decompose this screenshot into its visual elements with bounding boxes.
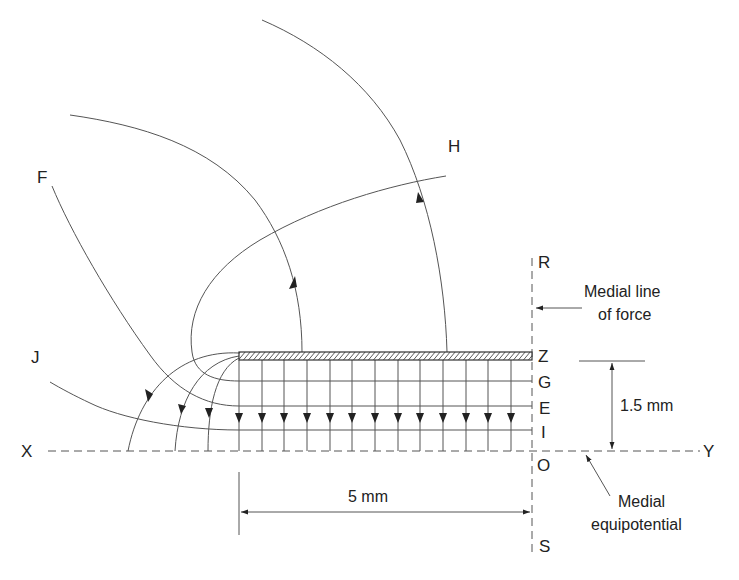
medial-equipotential-text-1: Medial [618, 493, 665, 510]
label-i: I [541, 423, 546, 442]
label-x: X [21, 442, 32, 461]
label-r: R [538, 253, 550, 272]
medial-line-of-force-text-1: Medial line [584, 283, 661, 300]
label-g: G [538, 373, 551, 392]
equipotential-lines [50, 176, 532, 430]
label-j: J [31, 348, 40, 367]
equipotential-g-h [191, 176, 532, 381]
label-o: O [537, 456, 550, 475]
field-line-inner-outer [70, 115, 302, 352]
label-z: Z [538, 347, 548, 366]
medial-line-of-force-text-2: of force [598, 306, 651, 323]
charged-plate [239, 352, 532, 360]
outer-arrowheads [289, 192, 424, 289]
equipotential-e-f [52, 186, 532, 406]
fringe-field-lines [128, 353, 239, 451]
field-arrowheads [235, 413, 515, 423]
width-dimension-label: 5 mm [348, 488, 388, 505]
height-dimension-label: 1.5 mm [620, 397, 673, 414]
label-e: E [539, 399, 550, 418]
outer-field-lines [70, 20, 447, 352]
medial-equipotential-pointer [586, 455, 610, 496]
label-s: S [539, 537, 550, 556]
label-y: Y [703, 442, 714, 461]
label-f: F [37, 168, 47, 187]
medial-equipotential-text-2: equipotential [591, 516, 682, 533]
fringe-arrowheads [145, 389, 213, 418]
field-line-outer [262, 20, 447, 352]
label-h: H [448, 137, 460, 156]
field-diagram: F H J R Z G E I O S X Y Medial line of f… [0, 0, 739, 580]
